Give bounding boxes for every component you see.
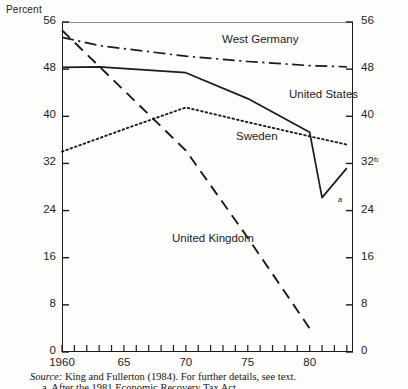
- y-tick-label-right-56: 56: [361, 14, 391, 26]
- y-tick-label-left-24: 24: [26, 203, 56, 215]
- series-label-united-states: United States: [289, 88, 358, 100]
- x-tick-label-65: 65: [104, 356, 144, 368]
- footnote-caption: a. After the 1981 Economic Recovery Tax …: [42, 382, 238, 389]
- y-tick-label-right-24: 24: [361, 203, 391, 215]
- series-line-united-kingdom: [62, 30, 310, 328]
- x-tick-label-75: 75: [228, 356, 268, 368]
- y-tick-label-left-16: 16: [26, 250, 56, 262]
- series-label-united-kingdom: United Kingdom: [172, 232, 254, 244]
- chart-canvas: [0, 0, 408, 389]
- series-label-west-germany: West Germany: [222, 33, 298, 45]
- y-tick-label-left-32: 32: [26, 155, 56, 167]
- annotation-a-label: a: [338, 195, 342, 204]
- y-tick-label-right-8: 8: [361, 297, 391, 309]
- source-prefix: Source:: [30, 371, 62, 382]
- source-body: King and Fullerton (1984). For further d…: [65, 371, 296, 382]
- series-lines: [62, 30, 347, 328]
- series-line-west-germany: [62, 37, 347, 66]
- y-tick-label-left-56: 56: [26, 14, 56, 26]
- source-caption: Source: King and Fullerton (1984). For f…: [30, 371, 296, 382]
- x-tick-label-1960: 1960: [42, 356, 82, 368]
- figure-root: Percent 08162432404856 08162432404856 19…: [0, 0, 408, 389]
- annotation-b-label: b: [374, 155, 378, 164]
- y-tick-label-right-0: 0: [361, 344, 391, 356]
- x-tick-label-80: 80: [290, 356, 330, 368]
- y-tick-label-left-40: 40: [26, 108, 56, 120]
- x-tick-label-70: 70: [166, 356, 206, 368]
- series-label-sweden: Sweden: [236, 130, 278, 142]
- y-tick-label-right-16: 16: [361, 250, 391, 262]
- y-tick-label-left-8: 8: [26, 297, 56, 309]
- y-tick-label-left-48: 48: [26, 61, 56, 73]
- y-tick-label-right-40: 40: [361, 108, 391, 120]
- y-tick-label-right-48: 48: [361, 61, 391, 73]
- y-tick-label-left-0: 0: [26, 344, 56, 356]
